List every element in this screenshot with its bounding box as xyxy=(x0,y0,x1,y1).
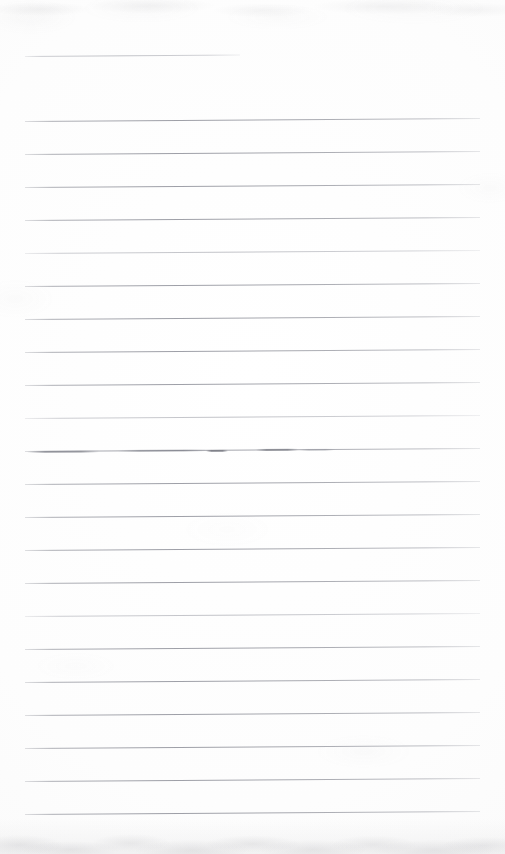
bottom-edge-smudge xyxy=(0,818,505,854)
top-edge-smudge xyxy=(0,0,505,26)
scanned-page: Blank ruled notebook page xyxy=(0,0,505,854)
pencil-smudge-mark xyxy=(206,450,228,452)
pencil-smudge-mark xyxy=(256,449,298,451)
pencil-smudge-mark xyxy=(300,449,334,451)
paper-grain-texture xyxy=(0,0,505,854)
